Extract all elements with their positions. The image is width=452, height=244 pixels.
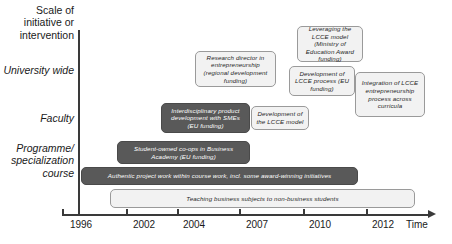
initiative-box-leveraging-lcce-model[interactable]: Leveraging the LCCE model (Ministry of E… (297, 26, 363, 62)
x-axis-line (62, 214, 430, 216)
initiative-label: Development of LCCE process (EU funding) (293, 70, 351, 93)
x-tick-mark-2007 (239, 209, 241, 215)
initiative-label: Development of the LCCE model (255, 110, 305, 125)
initiative-label: Student-owned co-ops in Business Academy… (121, 145, 246, 160)
initiative-box-interdisciplinary-product-development[interactable]: Interdisciplinary product development wi… (161, 103, 250, 133)
x-axis-title: Time (406, 219, 428, 230)
initiative-label: Authentic project work within course wor… (108, 172, 331, 180)
initiative-box-authentic-project-work[interactable]: Authentic project work within course wor… (81, 167, 358, 185)
y-axis-line (78, 30, 80, 216)
initiative-box-student-owned-coops[interactable]: Student-owned co-ops in Business Academy… (117, 141, 250, 164)
initiative-label: Leveraging the LCCE model (Ministry of E… (301, 25, 359, 63)
x-tick-label-2010: 2010 (309, 219, 331, 230)
initiative-label: Integration of LCCE entrepreneurship pro… (359, 79, 421, 109)
y-category-faculty: Faculty (0, 112, 74, 124)
initiative-box-development-lcce-model[interactable]: Development of the LCCE model (251, 106, 309, 130)
x-tick-label-2012: 2012 (372, 219, 394, 230)
initiative-label: Interdisciplinary product development wi… (165, 107, 246, 130)
y-category-programme-specialization-course: Programme/ specialization course (0, 142, 74, 179)
initiative-box-integration-lcce-curricula[interactable]: Integration of LCCE entrepreneurship pro… (355, 72, 425, 117)
x-axis-arrow-icon (428, 210, 436, 218)
timeline-diagram: Scale of initiative or intervention Univ… (0, 0, 452, 244)
y-axis-title: Scale of initiative or intervention (0, 4, 74, 41)
x-tick-mark-2010 (303, 209, 305, 215)
x-tick-mark-2012 (366, 209, 368, 215)
x-tick-mark-1996 (62, 209, 64, 215)
initiative-box-teaching-business-subjects[interactable]: Teaching business subjects to non-busine… (110, 189, 415, 208)
x-tick-mark-2002 (126, 209, 128, 215)
initiative-label: Research director in entrepreneurship (r… (199, 54, 272, 84)
x-tick-label-1996: 1996 (70, 219, 92, 230)
x-tick-label-2004: 2004 (183, 219, 205, 230)
initiative-box-development-lcce-process[interactable]: Development of LCCE process (EU funding) (289, 66, 355, 96)
x-tick-mark-2004 (177, 209, 179, 215)
x-tick-label-2002: 2002 (133, 219, 155, 230)
x-tick-label-2007: 2007 (246, 219, 268, 230)
initiative-label: Teaching business subjects to non-busine… (186, 195, 338, 203)
initiative-box-research-director[interactable]: Research director in entrepreneurship (r… (195, 51, 276, 87)
y-category-university-wide: University wide (0, 64, 74, 76)
